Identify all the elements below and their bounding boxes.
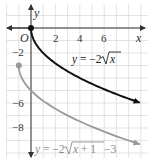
grid bbox=[6, 4, 148, 158]
eq1-radicand: x bbox=[109, 53, 116, 65]
origin-label: O bbox=[20, 31, 29, 45]
eq2-radicand: x + 1 bbox=[72, 143, 96, 155]
eq2-suffix: −3 bbox=[104, 143, 116, 155]
equation-label-2: y = −2 x + 1 −3 bbox=[34, 142, 116, 156]
svg-text:y = −2: y = −2 bbox=[71, 53, 102, 66]
x-tick-6: 6 bbox=[101, 32, 107, 44]
svg-text:y = −2: y = −2 bbox=[34, 143, 65, 156]
y-axis-label: y bbox=[33, 6, 40, 20]
y-tick-minus-2: −2 bbox=[12, 46, 24, 58]
y-tick-minus-8: −8 bbox=[12, 121, 24, 133]
y-tick-minus-6: −6 bbox=[12, 97, 24, 109]
x-tick-4: 4 bbox=[77, 32, 83, 44]
equation-label-1: y = −2 x bbox=[71, 52, 121, 66]
x-axis-label: x bbox=[135, 31, 142, 45]
graph-of-square-root-functions: y x O 2 4 6 −2 −6 −8 y = −2 x y = −2 x +… bbox=[0, 0, 151, 160]
curve1-start-point bbox=[28, 25, 34, 31]
x-tick-2: 2 bbox=[53, 32, 59, 44]
curve2-start-point bbox=[16, 63, 22, 69]
